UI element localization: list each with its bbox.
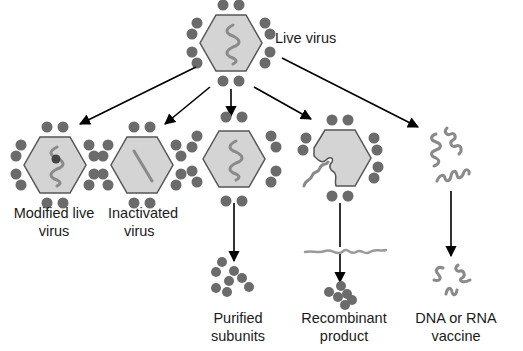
vaccine-diagram — [0, 0, 523, 351]
recombinant-gene-strand-icon — [305, 250, 386, 253]
recombinant-product-label: Recombinant product — [296, 309, 392, 345]
label-line-2: virus — [108, 222, 184, 240]
nucleic-acid-strands-icon — [432, 128, 470, 181]
purified-subunits-icon — [211, 257, 254, 297]
label-line-2: product — [296, 327, 392, 345]
label-line-2: virus — [2, 222, 106, 240]
modified-live-virus-icon — [11, 122, 100, 209]
live-virus-label: Live virus — [275, 29, 336, 47]
inactivated-virus-label: Inactivated virus — [108, 204, 184, 240]
label-line-1: Inactivated — [108, 204, 184, 222]
label-line-1: Purified — [198, 309, 278, 327]
label-line-1: DNA or RNA — [408, 309, 504, 327]
label-line-1: Recombinant — [296, 309, 392, 327]
nucleic-acid-vaccine-icon — [434, 265, 470, 295]
recombinant-product-icon — [324, 281, 357, 310]
label-line-1: Modified live — [2, 204, 106, 222]
purified-subunits-label: Purified subunits — [198, 309, 278, 345]
purified-subunits-virus-icon — [187, 112, 282, 207]
recombinant-virus-icon — [298, 115, 384, 202]
inactivated-virus-icon — [98, 122, 187, 209]
label-line-2: vaccine — [408, 327, 504, 345]
live-virus-icon — [187, 0, 276, 87]
label-line-2: subunits — [198, 327, 278, 345]
dna-rna-vaccine-label: DNA or RNA vaccine — [408, 309, 504, 345]
modified-live-virus-label: Modified live virus — [2, 204, 106, 240]
